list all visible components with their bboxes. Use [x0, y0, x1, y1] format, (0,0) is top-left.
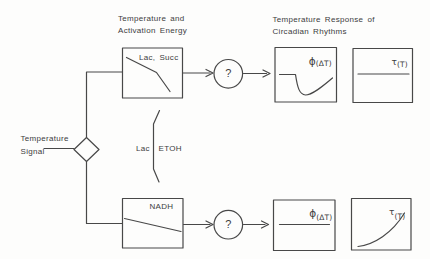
input-signal-line1: Temperature: [21, 133, 69, 146]
phase-plot-bottom-label: ϕ(ΔT): [274, 203, 333, 221]
tau-argument: (T): [397, 60, 408, 69]
period-plot-bottom-label: τ(T): [352, 202, 406, 220]
branch-diamond: [74, 138, 99, 162]
phi-symbol: ϕ: [309, 55, 316, 67]
branch-to-bottom-box-connector: [87, 162, 123, 224]
header-left-line2: Activation Energy: [118, 25, 187, 37]
input-signal-label: Temperature Signal: [21, 133, 69, 158]
input-signal-line2: Signal: [21, 146, 69, 159]
process-box-top-label: Lac, Succ: [139, 52, 178, 64]
header-right: Temperature Response of Circadian Rhythm…: [273, 14, 375, 37]
branch-arrow-right-label: ETOH: [159, 143, 182, 155]
period-plot-top-label: τ(T): [353, 52, 408, 70]
unknown-question-bottom: ?: [218, 218, 238, 230]
unknown-question-top: ?: [218, 67, 238, 79]
phase-plot-top-label: ϕ(ΔT): [275, 51, 332, 69]
process-box-bottom-label: NADH: [150, 201, 174, 213]
header-left-line1: Temperature and: [118, 13, 187, 25]
branch-arrow-left-label: Lac: [136, 143, 150, 155]
header-left: Temperature and Activation Energy: [118, 13, 187, 36]
header-right-line2: Circadian Rhythms: [273, 26, 375, 38]
branch-to-top-box-connector: [87, 72, 123, 138]
header-right-line1: Temperature Response of: [273, 14, 375, 26]
tau-argument: (T): [394, 212, 405, 221]
phi-argument: (ΔT): [316, 59, 332, 68]
phi-argument: (ΔT): [316, 213, 332, 222]
diagram-artwork: [0, 0, 430, 259]
diagram-canvas: Temperature and Activation Energy Temper…: [0, 0, 430, 259]
